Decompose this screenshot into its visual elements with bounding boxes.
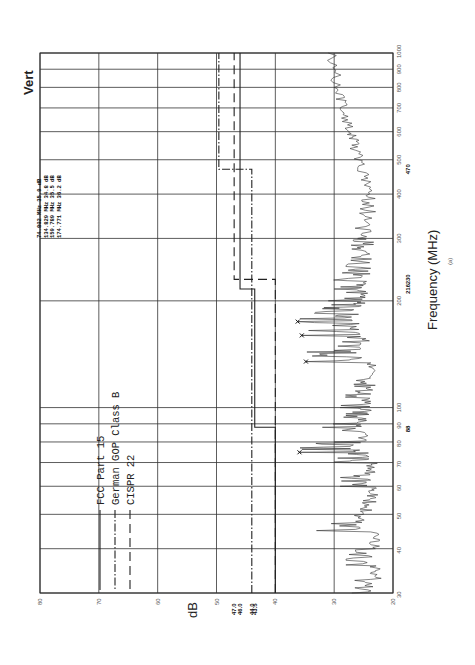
svg-text:200: 200 — [396, 295, 402, 306]
svg-text:German GOP Class B: German GOP Class B — [110, 392, 122, 505]
svg-text:600: 600 — [396, 126, 402, 137]
svg-text:230: 230 — [405, 274, 411, 285]
marker-readout: 74.802 MHz 35.9 dB134.829 MHz 34.8 dB159… — [36, 175, 63, 238]
svg-text:88: 88 — [405, 425, 411, 432]
svg-text:CISPR 22: CISPR 22 — [125, 455, 137, 505]
svg-text:30: 30 — [396, 591, 402, 598]
svg-text:46.0: 46.0 — [237, 603, 243, 615]
svg-text:500: 500 — [396, 154, 402, 165]
corner-label: Vert — [21, 70, 36, 95]
svg-text:50: 50 — [396, 512, 402, 519]
svg-text:300: 300 — [396, 233, 402, 244]
x-axis-title: Frequency (MHz) — [425, 230, 440, 330]
svg-text:900: 900 — [396, 64, 402, 75]
svg-text:30: 30 — [331, 598, 337, 605]
svg-text:60: 60 — [155, 598, 161, 605]
svg-text:800: 800 — [396, 82, 402, 93]
legend: FCC Part 15German GOP Class BCISPR 22 — [95, 392, 137, 590]
y-axis-title: dB — [185, 602, 200, 618]
svg-text:174.771 MHz 36.2 dB: 174.771 MHz 36.2 dB — [56, 175, 63, 238]
svg-text:60: 60 — [396, 484, 402, 491]
svg-text:70: 70 — [396, 460, 402, 467]
svg-text:40: 40 — [272, 598, 278, 605]
svg-text:80: 80 — [37, 598, 43, 605]
peak-markers — [296, 320, 308, 455]
svg-text:100: 100 — [396, 402, 402, 413]
svg-text:40: 40 — [396, 546, 402, 553]
svg-text:80: 80 — [396, 440, 402, 447]
spectrum-trace — [298, 53, 382, 593]
svg-text:50: 50 — [214, 598, 220, 605]
figure-caption: (a) — [447, 258, 453, 265]
svg-text:43.5: 43.5 — [252, 603, 258, 615]
emissions-chart: 2030405060708030405060708090100200300400… — [0, 0, 475, 665]
svg-text:470: 470 — [405, 164, 411, 175]
svg-text:1000: 1000 — [396, 44, 402, 58]
svg-text:700: 700 — [396, 102, 402, 113]
svg-text:90: 90 — [396, 421, 402, 428]
svg-text:400: 400 — [396, 188, 402, 199]
limit-lines — [219, 53, 275, 593]
svg-text:FCC Part 15: FCC Part 15 — [95, 436, 107, 505]
svg-text:70: 70 — [96, 598, 102, 605]
